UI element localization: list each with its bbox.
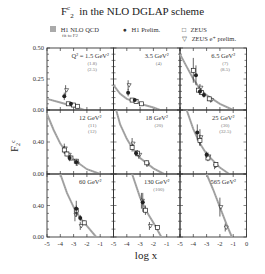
y-tick-label: 0.40	[33, 138, 44, 145]
panel-q2-sublabel: (100)	[153, 187, 164, 192]
zeus-point	[62, 148, 66, 152]
h1-prelim-point	[74, 160, 78, 164]
x-tick-label: -3	[204, 240, 209, 247]
x-tick-label: -3	[71, 240, 76, 247]
panel-q2-sublabel: (1.8)	[87, 61, 97, 66]
zeus-point	[214, 162, 218, 166]
y-tick-label: 0.40	[33, 202, 44, 209]
y-tick-label: 0.25	[33, 75, 44, 82]
zeus-e-prelim-point	[65, 89, 69, 93]
h1-prelim-point	[205, 153, 209, 157]
zeus-point	[82, 221, 86, 225]
panel-q2-label: 3.5 GeV²	[145, 52, 169, 59]
x-tick-label: -1	[164, 240, 169, 247]
h1-prelim-point	[78, 216, 82, 220]
x-tick-label: -5	[44, 240, 49, 247]
x-tick-label: -3	[137, 240, 142, 247]
panel-q2-label: 60 GeV²	[79, 178, 101, 185]
zeus-point	[155, 226, 159, 230]
x-tick-label: -2	[217, 240, 222, 247]
zeus-point	[76, 104, 80, 108]
panel-q2-sublabel: (4)	[156, 61, 162, 66]
x-tick-label: -2	[84, 240, 89, 247]
x-tick-label: -5	[177, 240, 182, 247]
panel-q2-sublabel: (32.5)	[219, 129, 231, 134]
h1-prelim-point	[68, 156, 72, 160]
h1-prelim-point	[69, 102, 73, 106]
panel-q2-label: Q² = 1.5 GeV²	[71, 52, 109, 59]
zeus-point	[145, 161, 149, 165]
h1-prelim-point	[62, 94, 66, 98]
panel-q2-label: 565 GeV²	[210, 178, 236, 185]
panel-q2-label: 25 GeV²	[212, 114, 234, 121]
h1-prelim-point	[134, 151, 138, 155]
panel-q2-sublabel: (30)	[221, 123, 230, 128]
zeus-point	[65, 152, 69, 156]
panel-q2-sublabel: (20)	[155, 123, 164, 128]
zeus-point	[139, 102, 143, 106]
x-tick-label: -2	[151, 240, 156, 247]
zeus-point	[191, 68, 195, 72]
h1-prelim-point	[74, 207, 78, 211]
h1-nlo-qcd-band	[114, 85, 161, 110]
panel-q2-sublabel: (8.5)	[220, 67, 230, 72]
zeus-point	[198, 138, 202, 142]
zeus-e-prelim-point	[127, 84, 131, 88]
x-axis-label: log x	[135, 249, 158, 261]
y-tick-label: 0.00	[33, 170, 44, 177]
h1-prelim-point	[202, 93, 206, 97]
zeus-point	[130, 146, 134, 150]
zeus-e-prelim-point	[131, 142, 135, 146]
panel-q2-label: 18 GeV²	[146, 114, 168, 121]
h1-prelim-point	[141, 200, 145, 204]
y-axis-label: F₂ᶜ	[9, 140, 20, 152]
h1-prelim-point	[133, 98, 137, 102]
zeus-point	[143, 208, 147, 212]
h1-prelim-point	[198, 89, 202, 93]
panel-q2-sublabel: (11)	[88, 123, 96, 128]
x-tick-label: -4	[124, 240, 130, 247]
x-tick-label: -5	[111, 240, 116, 247]
x-tick-label: -1	[230, 240, 235, 247]
x-tick-label: -1	[97, 240, 102, 247]
h1-prelim-point	[126, 91, 130, 95]
h1-prelim-point	[195, 130, 199, 134]
x-tick-label: -4	[191, 240, 197, 247]
y-tick-label: 0.50	[33, 44, 44, 51]
panel-q2-sublabel: (2.5)	[87, 67, 97, 72]
x-tick-label: 0	[245, 240, 248, 247]
chart-panels: Q² = 1.5 GeV²(1.8)(2.5)3.5 GeV²(4)6.5 Ge…	[0, 0, 265, 274]
panel-q2-sublabel: (7)	[222, 61, 228, 66]
h1-prelim-point	[194, 73, 198, 77]
x-tick-label: -4	[58, 240, 64, 247]
panel-q2-label: 6.5 GeV²	[211, 52, 235, 59]
y-tick-label: 0.00	[33, 106, 44, 113]
panel-q2-label: 130 GeV²	[144, 178, 170, 185]
panel-q2-sublabel: (12)	[88, 129, 97, 134]
zeus-e-prelim-point	[148, 224, 152, 228]
y-tick-label: 0.00	[33, 233, 44, 240]
zeus-point	[207, 97, 211, 101]
panel-q2-label: 12 GeV²	[79, 114, 101, 121]
